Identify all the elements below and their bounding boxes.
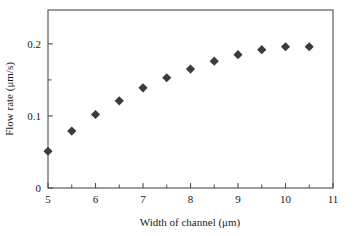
scatter-plot: 00.10.2 567891011 Width of channel (μm) …	[0, 0, 353, 236]
y-tick-label: 0.2	[27, 38, 41, 50]
y-tick-label: 0	[36, 182, 42, 194]
x-tick-label: 8	[188, 193, 194, 205]
x-axis-title: Width of channel (μm)	[140, 216, 241, 229]
x-tick-label: 10	[280, 193, 292, 205]
x-tick-label: 7	[140, 193, 146, 205]
y-tick-label: 0.1	[27, 110, 41, 122]
chart-figure: 00.10.2 567891011 Width of channel (μm) …	[0, 0, 353, 236]
x-tick-label: 9	[235, 193, 241, 205]
x-tick-label: 5	[45, 193, 51, 205]
y-axis-title: Flow rate (μm/s)	[3, 62, 16, 136]
x-tick-label: 6	[93, 193, 99, 205]
x-tick-label: 11	[328, 193, 339, 205]
figure-background	[0, 0, 353, 236]
